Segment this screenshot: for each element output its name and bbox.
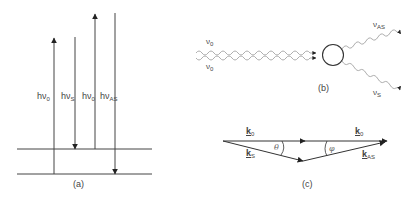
incoming-wave-bottom	[196, 56, 316, 60]
label-subscript: S	[377, 92, 381, 98]
label-hvas: hνAS	[100, 92, 118, 102]
caption-a: (a)	[73, 180, 84, 189]
caption-c: (c)	[302, 180, 313, 189]
panel-b-scattering-diagram	[196, 30, 400, 90]
label-main: hν	[61, 91, 71, 101]
label-subscript: 0	[92, 96, 95, 102]
label-theta: θ	[274, 144, 279, 152]
label-main: hν	[100, 91, 110, 101]
label-hvs: hνS	[61, 92, 75, 102]
label-v0-top: ν0	[206, 38, 213, 47]
label-phi: φ	[329, 145, 335, 153]
label-v0-bottom: ν0	[206, 63, 213, 72]
incoming-wave-top	[196, 51, 316, 55]
label-main: hν	[37, 91, 47, 101]
label-k0-left: k0	[246, 127, 254, 137]
label-k0-right: k0	[355, 127, 363, 137]
label-kas: kAS	[362, 150, 375, 160]
scattering-molecule	[323, 45, 344, 66]
label-vs: νS	[373, 89, 381, 98]
label-subscript: S	[251, 153, 255, 159]
label-main: hν	[82, 91, 92, 101]
label-subscript: AS	[377, 24, 385, 30]
caption-b: (b)	[318, 84, 329, 93]
label-ks: kS	[246, 149, 255, 159]
angle-arc-theta	[281, 141, 284, 155]
label-subscript: S	[71, 96, 75, 102]
label-subscript: 0	[360, 131, 363, 137]
label-subscript: 0	[210, 41, 213, 47]
vector-ks	[223, 141, 303, 161]
outgoing-wave-stokes	[342, 61, 400, 90]
label-hv0-1: hν0	[37, 92, 50, 102]
label-subscript: AS	[367, 154, 375, 160]
angle-arc-phi	[325, 141, 327, 156]
label-hv0-2: hν0	[82, 92, 95, 102]
label-subscript: AS	[110, 96, 118, 102]
label-subscript: 0	[251, 131, 254, 137]
label-vas: νAS	[373, 21, 385, 30]
label-subscript: 0	[47, 96, 50, 102]
outgoing-wave-antistokes	[342, 30, 400, 49]
label-subscript: 0	[210, 66, 213, 72]
